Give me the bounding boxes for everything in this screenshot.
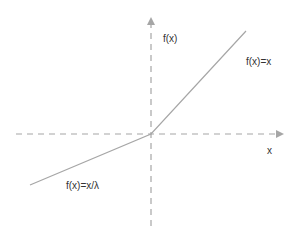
y-axis-label: f(x) <box>163 33 177 44</box>
function-curve <box>30 31 246 185</box>
positive-segment-label: f(x)=x <box>246 56 271 67</box>
function-diagram <box>0 0 297 236</box>
negative-segment-label: f(x)=x/λ <box>66 180 99 191</box>
x-axis-label: x <box>267 145 272 156</box>
